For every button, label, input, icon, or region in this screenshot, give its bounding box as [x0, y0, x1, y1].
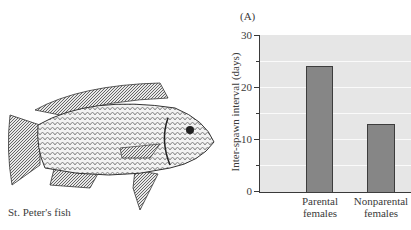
category-line: Parental [285, 195, 355, 207]
gridline [260, 87, 411, 88]
y-minor-tick [256, 165, 259, 166]
category-line: Nonparental [346, 195, 411, 207]
gridline [260, 61, 411, 62]
figure-caption: St. Peter's fish [8, 206, 71, 218]
bar-parental-females [306, 66, 333, 193]
y-minor-tick [256, 61, 259, 62]
fish-illustration [0, 70, 220, 220]
x-category-label: Nonparental females [346, 195, 411, 219]
y-tick [254, 35, 259, 36]
y-tick-label: 30 [228, 29, 252, 41]
category-line: females [346, 207, 411, 219]
x-category-label: Parental females [285, 195, 355, 219]
y-tick [254, 87, 259, 88]
y-tick [254, 191, 259, 192]
y-tick-label: 0 [228, 185, 252, 197]
panel-label: (A) [240, 10, 255, 22]
y-tick [254, 139, 259, 140]
y-axis [259, 35, 260, 193]
y-axis-label: Inter-spawn interval (days) [229, 47, 241, 177]
bar-nonparental-females [367, 124, 395, 193]
gridline [260, 113, 411, 114]
category-line: females [285, 207, 355, 219]
y-minor-tick [256, 113, 259, 114]
